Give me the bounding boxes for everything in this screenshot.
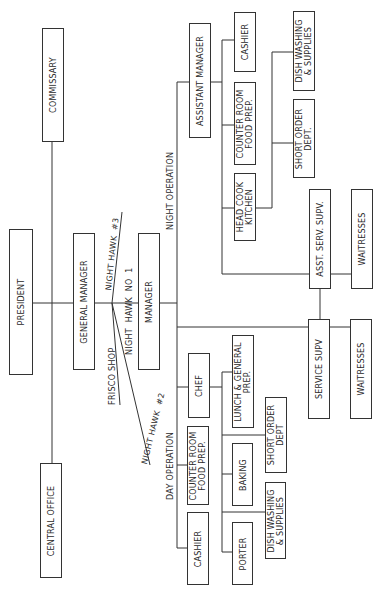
day-cashier-box: CASHIER <box>187 512 209 585</box>
day-cashier-label: CASHIER <box>194 530 203 567</box>
night-dish-washing-label: DISH WASHING & SUPPLIES <box>295 19 313 82</box>
night-waitresses-label: WAITRESSES <box>358 212 367 265</box>
central-office-box: CENTRAL OFFICE <box>40 463 62 578</box>
manager-box: MANAGER <box>138 233 160 370</box>
night-waitresses-box: WAITRESSES <box>351 189 373 289</box>
day-counter-room-label: COUNTER ROOM FOOD PREP. <box>189 431 207 500</box>
head-cook-label: HEAD COOK KITCHEN <box>236 182 254 232</box>
day-short-order-label: SHORT ORDER DEPT <box>267 405 285 466</box>
asst-serv-supv-label: ASST. SERV. SUPV. <box>316 201 325 277</box>
day-dish-washing-box: DISH WASHING & SUPPLIES <box>265 482 286 559</box>
frisco-shop-label: FRISCO SHOP <box>108 347 117 405</box>
president-label: PRESIDENT <box>17 279 26 326</box>
baking-box: BAKING <box>232 443 253 506</box>
day-waitresses-label: WAITRESSES <box>357 342 366 395</box>
day-short-order-box: SHORT ORDER DEPT <box>265 397 287 473</box>
commissary-label: COMMISSARY <box>49 57 58 113</box>
head-cook-box: HEAD COOK KITCHEN <box>234 173 256 241</box>
night-hawk-1-label: NIGHT HAWK NO 1 <box>125 267 134 355</box>
org-chart: COMMISSARY PRESIDENT CENTRAL OFFICE GENE… <box>0 0 388 590</box>
asst-serv-supv-box: ASST. SERV. SUPV. <box>309 189 331 289</box>
assistant-manager-label: ASSISTANT MANAGER <box>196 35 205 125</box>
baking-label: BAKING <box>238 459 247 491</box>
general-manager-label: GENERAL MANAGER <box>80 260 89 344</box>
service-supv-label: SERVICE SUPV <box>315 339 324 399</box>
day-dish-washing-label: DISH WASHING & SUPPLIES <box>267 489 285 552</box>
day-operation-label: DAY OPERATION <box>166 432 175 500</box>
porter-box: PORTER <box>232 522 253 585</box>
night-cashier-box: CASHIER <box>234 12 256 72</box>
night-short-order-box: SHORT ORDER DEPT. <box>293 99 315 178</box>
day-counter-room-box: COUNTER ROOM FOOD PREP. <box>187 426 209 505</box>
president-box: PRESIDENT <box>9 229 33 375</box>
chef-box: CHEF <box>188 353 210 418</box>
commissary-box: COMMISSARY <box>42 28 64 142</box>
night-cashier-label: CASHIER <box>241 24 250 61</box>
night-counter-room-box: COUNTER ROOM FOOD PREP. <box>234 82 256 165</box>
night-counter-room-label: COUNTER ROOM FOOD PREP. <box>236 89 254 158</box>
service-supv-box: SERVICE SUPV <box>308 319 330 419</box>
chef-label: CHEF <box>195 374 204 396</box>
day-waitresses-box: WAITRESSES <box>350 319 372 419</box>
lunch-general-prep-label: LUNCH & GENERAL PREP. <box>234 342 252 421</box>
night-operation-label: NIGHT OPERATION <box>166 152 175 230</box>
assistant-manager-box: ASSISTANT MANAGER <box>189 23 211 138</box>
night-dish-washing-box: DISH WASHING & SUPPLIES <box>293 11 315 91</box>
general-manager-box: GENERAL MANAGER <box>73 233 95 370</box>
porter-label: PORTER <box>238 537 247 570</box>
manager-label: MANAGER <box>145 281 154 323</box>
central-office-label: CENTRAL OFFICE <box>47 485 56 556</box>
lunch-general-prep-box: LUNCH & GENERAL PREP. <box>232 335 254 428</box>
night-short-order-label: SHORT ORDER DEPT. <box>295 108 313 169</box>
